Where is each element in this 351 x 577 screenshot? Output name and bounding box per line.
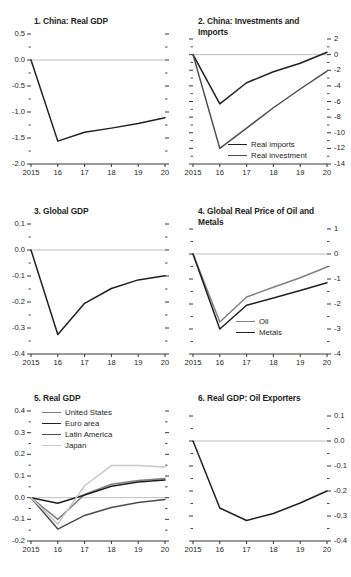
x-axis-tick-label: 18 (259, 169, 287, 177)
plot-svg (31, 224, 167, 356)
y-axis-tick-label: 0.5 (0, 30, 25, 38)
y-axis-tick-label: 0 (334, 250, 351, 258)
x-axis-tick-label: 20 (313, 169, 341, 177)
y-axis-tick-label: 2 (334, 35, 351, 43)
y-axis-tick-label: 1 (334, 225, 351, 233)
x-axis-tick-label: 20 (151, 359, 179, 367)
legend-item-japan: Japan (42, 440, 112, 451)
legend-item-oil: Oil (236, 316, 282, 327)
x-axis-tick-label: 17 (233, 169, 261, 177)
series-line (31, 480, 165, 503)
legend-item-real-investment: Real investment (228, 150, 307, 161)
panel-5-real-gdp: 5. Real GDP United States Euro area Lati… (0, 385, 176, 577)
x-axis-tick-label: 19 (286, 359, 314, 367)
y-axis-tick-label: -2 (334, 66, 351, 74)
legend-item-united-states: United States (42, 407, 112, 418)
y-axis-tick-label: -1.0 (0, 108, 25, 116)
x-axis-tick-label: 20 (313, 546, 341, 554)
x-axis-tick-label: 19 (124, 359, 152, 367)
legend-label-latin-america: Latin America (65, 430, 112, 439)
y-axis-tick-label: 0.0 (0, 246, 25, 254)
panel-6-plot-area (193, 416, 327, 541)
x-axis-tick-label: 18 (259, 546, 287, 554)
y-axis-tick-label: -0.2 (334, 487, 351, 495)
y-axis-tick-label: -0.3 (0, 324, 25, 332)
panel-3-plot-area (31, 224, 165, 354)
panel-4-title: 4. Global Real Price of Oil and Metals (198, 206, 316, 227)
x-axis-tick-label: 20 (151, 169, 179, 177)
panel-2-china-investments-imports: 2. China: Investments and Imports Real i… (176, 8, 351, 193)
x-axis-tick-label: 16 (44, 169, 72, 177)
panel-4-legend: Oil Metals (236, 316, 282, 338)
panel-2-legend: Real imports Real investment (228, 139, 307, 161)
legend-item-latin-america: Latin America (42, 429, 112, 440)
series-line (31, 466, 165, 524)
y-axis-tick-label: -2 (334, 300, 351, 308)
x-axis-tick-label: 19 (286, 169, 314, 177)
x-axis-tick-label: 16 (44, 546, 72, 554)
x-axis-tick-label: 20 (313, 359, 341, 367)
x-axis-tick-label: 17 (233, 546, 261, 554)
panel-6-real-gdp-oil-exporters: 6. Real GDP: Oil Exporters 0.10.0-0.1-0.… (176, 385, 351, 577)
y-axis-tick-label: 0.4 (0, 407, 25, 415)
y-axis-tick-label: -6 (334, 98, 351, 106)
y-axis-tick-label: -0.1 (334, 462, 351, 470)
y-axis-tick-label: -0.1 (0, 515, 25, 523)
series-line (193, 55, 327, 149)
x-axis-tick-label: 16 (44, 359, 72, 367)
y-axis-tick-label: 0.1 (0, 220, 25, 228)
y-axis-tick-label: -4 (334, 82, 351, 90)
legend-item-metals: Metals (236, 327, 282, 338)
x-axis-tick-label: 2015 (17, 169, 45, 177)
y-axis-tick-label: -2.0 (0, 160, 25, 168)
legend-swatch-united-states (42, 412, 61, 413)
x-axis-tick-label: 2015 (17, 546, 45, 554)
series-line (193, 52, 327, 104)
y-axis-tick-label: -0.2 (0, 298, 25, 306)
y-axis-tick-label: 0.0 (0, 56, 25, 64)
legend-label-real-imports: Real imports (251, 140, 295, 149)
y-axis-tick-label: 0.0 (0, 494, 25, 502)
series-line (31, 250, 165, 335)
x-axis-tick-label: 16 (206, 546, 234, 554)
y-axis-tick-label: -0.3 (334, 512, 351, 520)
legend-label-oil: Oil (259, 317, 269, 326)
panel-6-title: 6. Real GDP: Oil Exporters (198, 393, 328, 404)
legend-label-euro-area: Euro area (65, 419, 99, 428)
legend-label-real-investment: Real investment (251, 151, 307, 160)
legend-swatch-latin-america (42, 434, 61, 435)
y-axis-tick-label: -0.5 (0, 82, 25, 90)
figure-panel-grid: 1. China: Real GDP 0.50.0-0.5-1.0-1.5-2.… (0, 0, 351, 577)
legend-swatch-real-imports (228, 144, 247, 145)
plot-svg (31, 34, 167, 166)
panel-3-global-gdp: 3. Global GDP 0.10.0-0.1-0.2-0.3-0.42015… (0, 198, 176, 380)
y-axis-tick-label: 0.1 (0, 472, 25, 480)
x-axis-tick-label: 18 (97, 359, 125, 367)
y-axis-tick-label: -8 (334, 113, 351, 121)
y-axis-tick-label: -1.5 (0, 134, 25, 142)
x-axis-tick-label: 2015 (179, 546, 207, 554)
y-axis-tick-label: -12 (334, 144, 351, 152)
y-axis-tick-label: -14 (334, 160, 351, 168)
legend-swatch-japan (42, 445, 61, 446)
panel-1-title: 1. China: Real GDP (34, 16, 174, 27)
x-axis-tick-label: 18 (97, 546, 125, 554)
x-axis-tick-label: 16 (206, 359, 234, 367)
x-axis-tick-label: 18 (97, 169, 125, 177)
plot-svg (193, 416, 329, 543)
legend-swatch-oil (236, 321, 255, 322)
legend-item-real-imports: Real imports (228, 139, 307, 150)
panel-1-plot-area (31, 34, 165, 164)
y-axis-tick-label: 0.2 (0, 450, 25, 458)
series-line (193, 441, 327, 521)
legend-label-metals: Metals (259, 328, 282, 337)
y-axis-tick-label: 0.0 (334, 437, 351, 445)
x-axis-tick-label: 19 (286, 546, 314, 554)
x-axis-tick-label: 2015 (179, 169, 207, 177)
series-line (31, 60, 165, 141)
x-axis-tick-label: 17 (71, 169, 99, 177)
y-axis-tick-label: -3 (334, 325, 351, 333)
y-axis-tick-label: -4 (334, 350, 351, 358)
y-axis-tick-label: 0.1 (334, 412, 351, 420)
x-axis-tick-label: 19 (124, 169, 152, 177)
